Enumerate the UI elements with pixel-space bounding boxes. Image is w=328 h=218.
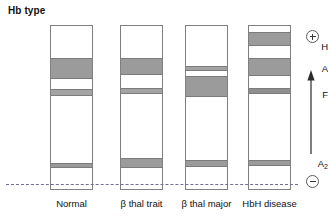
band-hbh-disease-hbf [249, 88, 290, 94]
band-beta-thal-trait-hbf [121, 88, 162, 94]
anode-positive-electrode [306, 30, 319, 43]
gel-lane-beta-thal-trait [120, 25, 163, 190]
row-label-text: A [322, 63, 328, 74]
band-beta-thal-trait-hba [121, 58, 162, 75]
gel-lane-beta-thal-major [185, 25, 228, 190]
hemoglobin-electrophoresis-figure: Hb type HAFA2 Normalβ thal traitβ thal m… [0, 0, 328, 218]
cathode-negative-electrode [306, 175, 319, 188]
band-hbh-disease-hba [249, 58, 290, 76]
band-beta-thal-major-hbf [186, 76, 227, 97]
migration-direction-arrow [306, 70, 316, 154]
gel-lane-normal [50, 25, 93, 190]
figure-title: Hb type [8, 5, 45, 16]
origin-dashed-line [6, 184, 298, 185]
row-label-text: H [321, 41, 328, 52]
band-hbh-disease-hba2 [249, 160, 290, 166]
band-beta-thal-trait-hba2 [121, 158, 162, 168]
band-normal-hbf [51, 89, 92, 96]
lane-caption-hbh-disease: HbH disease [230, 198, 309, 209]
gel-lane-hbh-disease [248, 25, 291, 190]
row-label-h: H [286, 41, 328, 52]
row-label-subscript: 2 [324, 163, 328, 170]
band-normal-hba [51, 58, 92, 79]
band-beta-thal-major-hba [186, 66, 227, 71]
band-hbh-disease-hbh [249, 32, 290, 46]
band-normal-hba2 [51, 163, 92, 168]
band-beta-thal-major-hba2 [186, 160, 227, 167]
lane-caption-normal: Normal [32, 198, 111, 209]
row-label-text: F [322, 89, 328, 100]
row-label-a2: A2 [286, 158, 328, 169]
